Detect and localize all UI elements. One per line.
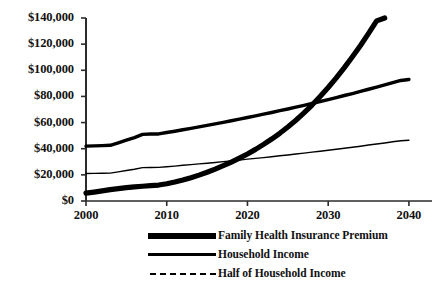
y-tick-label: $120,000 (0, 36, 74, 51)
y-tick-label: $40,000 (0, 141, 74, 156)
y-tick-label: $140,000 (0, 10, 74, 25)
chart-legend: Family Health Insurance Premium Househol… (0, 226, 446, 286)
axes (81, 18, 432, 206)
legend-label-household-income: Household Income (218, 247, 309, 261)
y-tick-label: $60,000 (0, 115, 74, 130)
medium-line-swatch-icon (148, 253, 216, 256)
legend-label-half-household-income: Half of Household Income (218, 266, 346, 280)
series-line-family-health-insurance-premium (86, 18, 385, 193)
series-line-household-income (86, 79, 409, 146)
x-tick-label: 2040 (382, 208, 436, 223)
y-tick-label: $100,000 (0, 62, 74, 77)
y-tick-label: $20,000 (0, 167, 74, 182)
x-tick-label: 2020 (220, 208, 274, 223)
series-lines (86, 18, 409, 193)
legend-item-half-household-income: Half of Household Income (0, 266, 446, 283)
y-tick-label: $80,000 (0, 88, 74, 103)
series-line-half-of-household-income (86, 140, 409, 173)
x-tick-label: 2000 (59, 208, 113, 223)
y-tick-label: $0 (0, 193, 74, 208)
line-chart: $0$20,000$40,000$60,000$80,000$100,000$1… (0, 0, 446, 286)
x-tick-label: 2030 (301, 208, 355, 223)
thick-line-swatch-icon (148, 233, 216, 239)
x-tick-label: 2010 (140, 208, 194, 223)
legend-label-premium: Family Health Insurance Premium (218, 228, 388, 242)
legend-item-household-income: Household Income (0, 247, 446, 264)
dashed-line-swatch-icon (150, 273, 216, 275)
legend-item-premium: Family Health Insurance Premium (0, 228, 446, 245)
